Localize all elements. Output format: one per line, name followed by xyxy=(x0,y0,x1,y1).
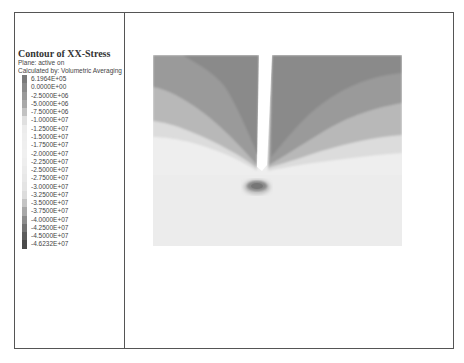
legend-value: -1.2500E+07 xyxy=(31,125,68,133)
legend-value: -5.0000E+06 xyxy=(31,100,68,108)
contour-plot xyxy=(153,55,402,246)
legend-swatch xyxy=(22,149,27,157)
legend-value: -1.0000E+07 xyxy=(31,116,68,124)
contour-legend: Contour of XX-Stress Plane: active on Ca… xyxy=(18,48,128,249)
legend-swatch xyxy=(22,125,27,133)
legend-entry: -4.2500E+07 xyxy=(18,224,128,232)
legend-entry: -1.5000E+07 xyxy=(18,133,128,141)
legend-entry: -3.5000E+07 xyxy=(18,199,128,207)
legend-swatch xyxy=(22,100,27,108)
legend-entry: -2.7500E+07 xyxy=(18,174,128,182)
legend-value: -3.5000E+07 xyxy=(31,199,68,207)
legend-entry: -2.5000E+06 xyxy=(18,92,128,100)
legend-swatch xyxy=(22,199,27,207)
legend-entry: -4.0000E+07 xyxy=(18,216,128,224)
legend-entry: 0.0000E+00 xyxy=(18,83,128,91)
legend-swatch xyxy=(22,191,27,199)
legend-swatch xyxy=(22,166,27,174)
legend-entry: -2.0000E+07 xyxy=(18,149,128,157)
legend-calc: Calculated by: Volumetric Averaging xyxy=(18,67,128,75)
legend-entry: -4.5000E+07 xyxy=(18,232,128,240)
legend-swatch xyxy=(22,232,27,240)
legend-plane: Plane: active on xyxy=(18,59,128,67)
legend-swatch xyxy=(22,174,27,182)
legend-entry: -5.0000E+06 xyxy=(18,100,128,108)
legend-entry: -3.7500E+07 xyxy=(18,207,128,215)
legend-entry: -3.2500E+07 xyxy=(18,191,128,199)
legend-value: -4.2500E+07 xyxy=(31,224,68,232)
legend-entry: -1.0000E+07 xyxy=(18,116,128,124)
legend-title: Contour of XX-Stress xyxy=(18,48,128,59)
legend-value: -7.5000E+06 xyxy=(31,108,68,116)
legend-swatch xyxy=(22,108,27,116)
legend-swatch xyxy=(22,116,27,124)
legend-value: -2.5000E+07 xyxy=(31,166,68,174)
legend-entry: -4.6232E+07 xyxy=(18,240,128,248)
legend-swatch xyxy=(22,240,27,248)
legend-swatch xyxy=(22,158,27,166)
legend-value: -2.5000E+06 xyxy=(31,92,68,100)
legend-swatch xyxy=(22,92,27,100)
legend-value: -2.0000E+07 xyxy=(31,150,68,158)
legend-value: -2.2500E+07 xyxy=(31,158,68,166)
legend-value: -4.0000E+07 xyxy=(31,216,68,224)
legend-value: 6.1964E+05 xyxy=(31,75,66,83)
legend-entry: -1.7500E+07 xyxy=(18,141,128,149)
legend-entry: -3.0000E+07 xyxy=(18,182,128,190)
legend-value: -1.5000E+07 xyxy=(31,133,68,141)
legend-value: -4.6232E+07 xyxy=(31,240,68,248)
legend-value: -3.2500E+07 xyxy=(31,191,68,199)
legend-entry: -1.2500E+07 xyxy=(18,125,128,133)
legend-value: -2.7500E+07 xyxy=(31,174,68,182)
legend-swatch xyxy=(22,216,27,224)
legend-rows: 6.1964E+050.0000E+00-2.5000E+06-5.0000E+… xyxy=(18,75,128,249)
legend-swatch xyxy=(22,207,27,215)
legend-entry: -2.2500E+07 xyxy=(18,158,128,166)
legend-value: -3.7500E+07 xyxy=(31,207,68,215)
legend-value: -4.5000E+07 xyxy=(31,232,68,240)
legend-entry: 6.1964E+05 xyxy=(18,75,128,83)
legend-swatch xyxy=(22,182,27,190)
legend-entry: -2.5000E+07 xyxy=(18,166,128,174)
legend-entry: -7.5000E+06 xyxy=(18,108,128,116)
legend-swatch xyxy=(22,141,27,149)
legend-value: -1.7500E+07 xyxy=(31,141,68,149)
legend-swatch xyxy=(22,224,27,232)
legend-value: 0.0000E+00 xyxy=(31,83,66,91)
legend-swatch xyxy=(22,83,27,91)
legend-value: -3.0000E+07 xyxy=(31,183,68,191)
legend-swatch xyxy=(22,75,27,83)
legend-swatch xyxy=(22,133,27,141)
